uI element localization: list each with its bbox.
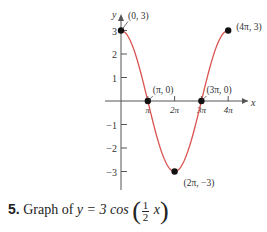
svg-text:3: 3 <box>112 26 117 37</box>
fraction: 12 <box>142 200 150 223</box>
point-label: (3π, 0) <box>206 85 231 96</box>
caption-text: Graph of <box>23 202 73 217</box>
point-marker <box>171 168 177 174</box>
svg-text:1: 1 <box>112 73 117 84</box>
point-label: (4π, 3) <box>236 22 261 33</box>
svg-text:y: y <box>111 9 117 20</box>
svg-text:−3: −3 <box>106 167 117 178</box>
svg-text:−2: −2 <box>106 143 117 154</box>
caption-number: 5. <box>8 201 20 217</box>
point-label: (2π, −3) <box>184 178 215 189</box>
svg-text:4π: 4π <box>224 105 234 115</box>
caption-equation-left: y = 3 cos <box>77 202 129 217</box>
y-axis-arrow-icon <box>118 14 124 21</box>
point-label: (0, 3) <box>128 11 149 22</box>
point-marker <box>225 27 231 33</box>
point-label: (π, 0) <box>153 85 174 96</box>
figure-caption: 5. Graph of y = 3 cos (12 x) <box>8 196 169 226</box>
x-axis-arrow-icon <box>242 98 248 104</box>
svg-text:3π: 3π <box>196 105 207 115</box>
svg-text:x: x <box>250 97 256 108</box>
svg-text:2: 2 <box>112 49 117 60</box>
svg-text:−1: −1 <box>106 120 117 131</box>
svg-text:2π: 2π <box>170 105 180 115</box>
